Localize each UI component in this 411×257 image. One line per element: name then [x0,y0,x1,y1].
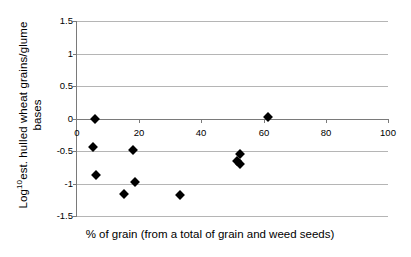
y-axis-tick-labels: 1.510.50-0.5-1-1.5 [47,21,73,216]
data-point-marker [91,170,101,180]
y-axis-tick [73,54,77,55]
data-point-marker [175,190,185,200]
x-axis-title: % of grain (from a total of grain and we… [40,228,380,240]
x-axis-tick [326,119,327,123]
x-axis-tick [139,119,140,123]
gridline [77,86,388,87]
x-axis-tick-label: 80 [321,127,332,138]
y-axis-tick [73,86,77,87]
y-axis-tick-label: 0.5 [60,81,73,91]
x-axis-tick-label: 60 [259,127,270,138]
scatter-chart-figure: Log10est. hulled wheat grains/glume base… [0,0,411,257]
x-axis-tick [201,119,202,123]
x-axis-tick-labels: 020406080100 [77,127,388,141]
x-axis-tick-label: 40 [196,127,207,138]
data-point-marker [235,159,245,169]
gridline [77,216,388,217]
y-axis-title-line1: est. hulled wheat grains/glume [17,22,29,180]
plot-area [77,21,388,216]
y-axis-tick-label: -1 [65,179,73,189]
y-axis-tick-label: 1.5 [60,16,73,26]
data-point-marker [119,189,129,199]
y-axis-tick-label: -0.5 [57,146,73,156]
gridline [77,54,388,55]
y-axis-tick-label: -1.5 [57,211,73,221]
y-axis-tick [73,21,77,22]
x-axis-tick-label: 20 [134,127,145,138]
data-point-marker [128,145,138,155]
y-axis-tick [73,119,77,120]
y-axis-tick [73,216,77,217]
data-point-marker [130,177,140,187]
x-axis-tick-label: 0 [74,127,79,138]
gridline [77,184,388,185]
y-axis-title-line2: bases [30,22,44,209]
gridline [77,21,388,22]
data-point-marker [90,114,100,124]
y-axis-title-superscript: 10 [15,180,24,189]
y-axis-tick [73,184,77,185]
y-axis-tick [73,151,77,152]
x-axis-tick [388,119,389,123]
y-axis-title-prefix: Log [17,189,29,209]
gridline [77,151,388,152]
x-axis-line [77,119,388,120]
x-axis-tick-label: 100 [380,127,396,138]
